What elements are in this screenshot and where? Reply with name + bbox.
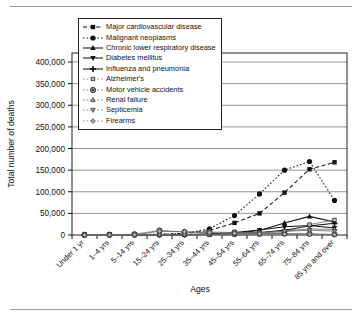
data-point-marker: [257, 211, 261, 215]
legend-item-label: Diabetes mellitus: [106, 53, 162, 63]
small-square-marker: [82, 74, 104, 84]
data-point-marker: [307, 214, 312, 219]
small-triangle-down-marker: [82, 105, 104, 115]
legend-item-label: Malignant neoplasms: [106, 33, 176, 43]
circled-dot-marker: [82, 85, 104, 95]
legend-item-label: Alzheimer's: [106, 74, 144, 84]
legend-item-label: Major cardiovascular disease: [106, 22, 202, 32]
series-line: [85, 162, 335, 234]
data-point-marker: [307, 159, 312, 164]
plus-marker: [82, 64, 104, 74]
series-line: [85, 161, 335, 234]
small-diamond-marker: [82, 116, 104, 126]
x-axis-tick-label: Under 1 yr: [54, 238, 86, 270]
x-axis-title: Ages: [190, 284, 210, 294]
legend-item[interactable]: Diabetes mellitus: [82, 53, 217, 63]
y-axis-tick-label: 250,000: [35, 123, 65, 132]
small-triangle-up-marker: [82, 95, 104, 105]
data-point-marker: [282, 190, 286, 194]
circle-marker: [82, 33, 104, 43]
y-axis-tick-label: 300,000: [35, 101, 65, 110]
triangle-up-marker: [82, 43, 104, 53]
legend-item[interactable]: Major cardiovascular disease: [82, 22, 217, 32]
y-axis-title: Total number of deaths: [6, 100, 16, 187]
legend-item[interactable]: Renal failure: [82, 95, 217, 105]
y-axis-labels-group: 050,000100,000150,000200,000250,000300,0…: [35, 58, 65, 240]
legend-item[interactable]: Chronic lower respiratory disease: [82, 43, 217, 53]
data-point-marker: [307, 167, 311, 171]
legend-item-label: Chronic lower respiratory disease: [106, 43, 216, 53]
legend-item-label: Renal failure: [106, 95, 148, 105]
legend-item-label: Septicemia: [106, 105, 143, 115]
data-point-marker: [232, 213, 237, 218]
data-series-group: [82, 159, 338, 238]
triangle-down-marker: [82, 53, 104, 63]
legend-item[interactable]: Septicemia: [82, 105, 217, 115]
chart-figure: 050,000100,000150,000200,000250,000300,0…: [0, 0, 362, 320]
legend-item-label: Firearms: [106, 116, 135, 126]
data-point-marker: [332, 198, 337, 203]
y-axis-ticks-group: [68, 62, 72, 235]
data-point-marker: [332, 160, 336, 164]
x-axis-labels-group: Under 1 yr1–4 yrs5–14 yrs15–24 yrs25–34 …: [54, 238, 336, 282]
square-marker: [82, 22, 104, 32]
data-point-marker: [282, 168, 287, 173]
data-point-marker: [257, 191, 262, 196]
y-axis-tick-label: 100,000: [35, 188, 65, 197]
y-axis-tick-label: 50,000: [40, 209, 65, 218]
legend-item[interactable]: Malignant neoplasms: [82, 32, 217, 42]
data-point-marker: [333, 218, 336, 221]
y-axis-tick-label: 150,000: [35, 166, 65, 175]
y-axis-tick-label: 0: [60, 231, 65, 240]
y-axis-tick-label: 200,000: [35, 145, 65, 154]
legend-item[interactable]: Motor vehicle accidents: [82, 84, 217, 94]
series-major-cardiovascular-disease: [82, 160, 336, 237]
y-axis-tick-label: 400,000: [35, 58, 65, 67]
data-point-marker: [232, 221, 236, 225]
x-axis-tick-label: 1–4 yrs: [87, 238, 111, 262]
legend-item-label: Influenza and pneumonia: [106, 64, 189, 74]
chart-legend: Major cardiovascular diseaseMalignant ne…: [78, 18, 222, 130]
y-axis-tick-label: 350,000: [35, 80, 65, 89]
legend-item-label: Motor vehicle accidents: [106, 85, 183, 95]
legend-item[interactable]: Alzheimer's: [82, 74, 217, 84]
legend-item[interactable]: Firearms: [82, 116, 217, 126]
legend-item[interactable]: Influenza and pneumonia: [82, 64, 217, 74]
